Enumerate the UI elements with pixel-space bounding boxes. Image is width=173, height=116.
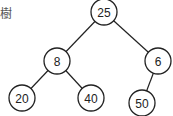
svg-text:20: 20 — [15, 92, 29, 106]
svg-text:8: 8 — [54, 55, 61, 69]
svg-text:40: 40 — [84, 92, 98, 106]
tree-node-25: 25 — [91, 0, 117, 25]
tree-node-8: 8 — [44, 48, 70, 74]
svg-text:6: 6 — [155, 55, 162, 69]
tree-node-20: 20 — [9, 85, 35, 111]
binary-tree-diagram: 2586204050 — [0, 0, 173, 116]
tree-node-40: 40 — [78, 85, 104, 111]
svg-text:50: 50 — [135, 97, 149, 111]
tree-node-50: 50 — [129, 90, 155, 116]
svg-text:25: 25 — [97, 6, 111, 20]
tree-node-6: 6 — [145, 48, 171, 74]
